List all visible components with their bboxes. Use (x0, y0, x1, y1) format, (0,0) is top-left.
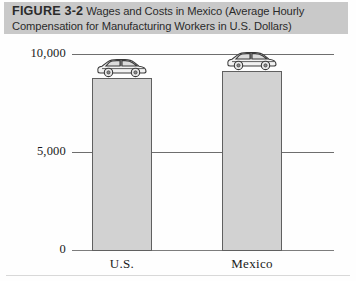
figure-header-band: FIGURE 3-2Wages and Costs in Mexico (Ave… (4, 2, 348, 34)
chart-plot-area: 10,000 5,000 0 (0, 34, 356, 281)
figure-caption: FIGURE 3-2Wages and Costs in Mexico (Ave… (12, 4, 342, 33)
page-divider (6, 275, 350, 276)
x-axis-tick-mexico: Mexico (212, 256, 292, 272)
y-axis-tick-0: 0 (4, 242, 66, 257)
figure-container: FIGURE 3-2Wages and Costs in Mexico (Ave… (0, 0, 356, 281)
car-icon (224, 48, 280, 72)
bar-us (92, 78, 152, 251)
figure-number: FIGURE 3-2 (12, 4, 83, 18)
y-axis-tick-10000: 10,000 (4, 46, 66, 61)
y-axis-tick-5000: 5,000 (4, 144, 66, 159)
car-icon (94, 55, 150, 79)
x-axis-tick-us: U.S. (82, 256, 162, 272)
bar-mexico (222, 71, 282, 251)
